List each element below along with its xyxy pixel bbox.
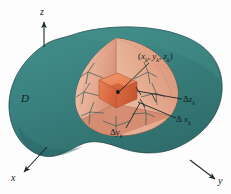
diagram-svg <box>0 0 231 194</box>
z-axis-label: z <box>40 7 44 17</box>
point-comma-2: , <box>159 51 161 61</box>
point-comma-1: , <box>148 51 150 61</box>
region-label-d: D <box>21 93 29 104</box>
paren-close: ) <box>170 51 173 61</box>
delta-symbol-x: Δ <box>176 114 182 124</box>
y-axis-arrow <box>190 160 215 179</box>
delta-z-sub: k <box>192 100 195 106</box>
sample-point-dot <box>116 90 120 94</box>
figure-canvas: z x y D (xk, yk, zk) Δzk Δ xk Δyk <box>0 0 231 194</box>
delta-z-label: Δzk <box>183 95 195 106</box>
delta-x-sub: k <box>188 120 191 126</box>
sample-point-label: (xk, yk, zk) <box>138 52 173 63</box>
delta-y-label: Δyk <box>110 128 123 139</box>
delta-y-sub: k <box>120 133 123 139</box>
y-axis-label: y <box>218 176 222 186</box>
delta-x-label: Δ xk <box>176 115 191 126</box>
x-axis-label: x <box>11 173 15 183</box>
